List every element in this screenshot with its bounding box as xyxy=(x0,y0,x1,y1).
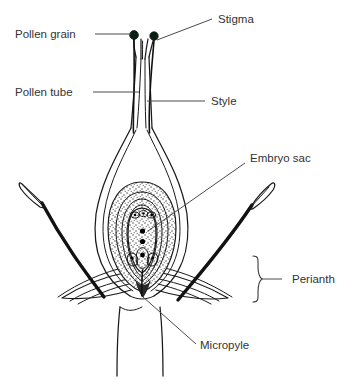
label-pollen-tube: Pollen tube xyxy=(15,86,73,98)
label-pollen-grain: Pollen grain xyxy=(15,28,76,40)
label-micropyle: Micropyle xyxy=(200,339,249,351)
label-stigma: Stigma xyxy=(218,13,254,25)
label-embryo-sac: Embryo sac xyxy=(250,152,311,164)
pollen-grain-right xyxy=(150,32,158,40)
pollen-grain-left xyxy=(130,31,139,40)
flower-fertilisation-diagram: Pollen grain Pollen tube Stigma Style Em… xyxy=(0,0,347,383)
label-style: Style xyxy=(211,95,237,107)
label-perianth: Perianth xyxy=(292,273,335,285)
flower-diagram-svg: Pollen grain Pollen tube Stigma Style Em… xyxy=(0,0,347,383)
